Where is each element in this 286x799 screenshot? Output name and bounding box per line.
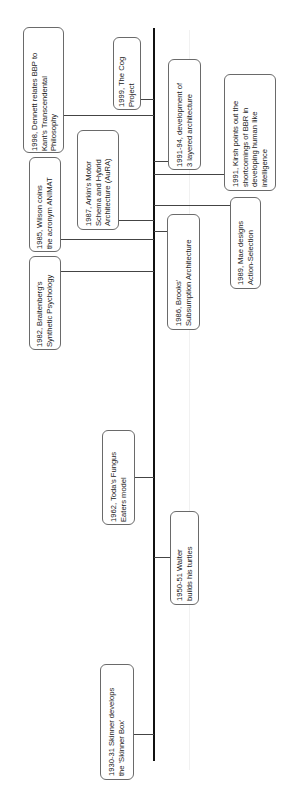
event-label: 1930-31 Skinner develops the 'Skinner Bo…	[107, 668, 126, 776]
timeline-axis	[153, 28, 155, 761]
event-label: 1985, Wilson coins the acronym ANIMAT	[35, 161, 54, 249]
connector-dennett	[64, 115, 154, 116]
connector-braitenberg	[61, 271, 154, 272]
connector-arkin	[119, 220, 154, 221]
connector-mae	[154, 205, 230, 206]
event-label: 1982, Braitenberg's Synthetic Psychology	[35, 259, 54, 347]
event-box-braitenberg: 1982, Braitenberg's Synthetic Psychology	[29, 256, 61, 350]
connector-walter	[154, 557, 170, 558]
event-box-mae: 1989, Mae designs Action-Selection	[230, 197, 261, 289]
connector-wilson	[61, 239, 154, 240]
connector-kirsh	[154, 174, 224, 175]
connector-brooks	[154, 231, 167, 232]
event-box-dennett: 1998, Dennett relates BBP to Kant's Tran…	[23, 27, 64, 153]
event-box-skinner: 1930-31 Skinner develops the 'Skinner Bo…	[100, 664, 134, 780]
event-box-kirsh: 1991, Kirsh points out the shortcomings …	[224, 74, 276, 191]
event-box-brooks: 1986, Brooks' Subsumption Architecture	[167, 214, 200, 330]
event-box-toda: 1962, Toda's Fungus Eaters model	[102, 430, 135, 525]
event-box-arkin: 1987, Arkin's Motor Schema and Hybrid Ar…	[77, 130, 119, 230]
timeline-diagram: 1998, Dennett relates BBP to Kant's Tran…	[0, 0, 286, 799]
event-box-walter: 1950-51 Walter builds his turtles	[170, 511, 199, 605]
connector-toda	[135, 477, 154, 478]
event-label: 1987, Arkin's Motor Schema and Hybrid Ar…	[84, 134, 113, 226]
connector-cog	[141, 99, 154, 100]
event-label: 1991, Kirsh points out the shortcomings …	[231, 79, 269, 187]
event-box-layered: 1991-94, development of 3 layered archit…	[168, 59, 201, 170]
event-box-wilson: 1985, Wilson coins the acronym ANIMAT	[29, 157, 61, 252]
connector-skinner	[134, 734, 154, 735]
event-label: 1999, The Cog Project	[117, 41, 136, 107]
event-label: 1986, Brooks' Subsumption Architecture	[174, 218, 193, 326]
event-label: 1989, Mae designs Action-Selection	[236, 201, 255, 285]
event-label: 1962, Toda's Fungus Eaters model	[109, 434, 128, 522]
event-label: 1950-51 Walter builds his turtles	[175, 515, 194, 601]
event-box-cog: 1999, The Cog Project	[113, 37, 141, 110]
event-label: 1991-94, development of 3 layered archit…	[175, 63, 194, 167]
connector-layered	[154, 161, 168, 162]
event-label: 1998, Dennett relates BBP to Kant's Tran…	[29, 29, 58, 151]
